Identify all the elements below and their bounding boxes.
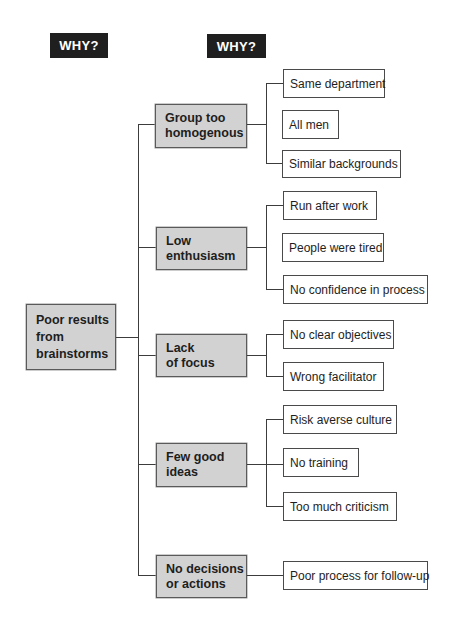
cause-connector [138,464,156,465]
leaf-connector [266,83,283,84]
leaf-connector [266,419,283,420]
branch-line [266,419,267,507]
subcause-too-much-criticism: Too much criticism [283,492,397,521]
leaf-connector [266,205,283,206]
cause-label-line: enthusiasm [166,249,235,264]
cause-label-line: homogenous [165,126,243,141]
cause-label-line: No decisions [166,562,244,577]
leaf-connector [266,376,283,377]
subcause-no-confidence-in-process: No confidence in process [283,275,428,304]
root-label-line: from [36,329,109,346]
cause-connector [138,575,156,576]
subcause-same-department: Same department [283,69,385,98]
leaf-connector [266,334,283,335]
subcause-people-were-tired: People were tired [282,233,384,262]
subcause-poor-process-for-follow-up: Poor process for follow-up [283,561,428,590]
subcause-no-training: No training [283,448,359,477]
leaf-connector [266,163,283,164]
cause-label-line: ideas [166,465,224,480]
branch-line [266,334,267,377]
subcause-run-after-work: Run after work [283,191,377,220]
cause-out-connector [247,575,283,576]
cause-label-line: or actions [166,577,244,592]
root-problem-box: Poor results from brainstorms [26,304,116,370]
root-connector [116,337,138,338]
cause-box-no-decisions-or-actions: No decisions or actions [156,555,247,598]
cause-connector [138,355,156,356]
root-problem-label: Poor results from brainstorms [36,312,109,363]
branch-line [266,83,267,164]
root-label-line: Poor results [36,312,109,329]
cause-out-connector [247,247,266,248]
cause-box-group-too-homogenous: Group too homogenous [155,104,247,148]
cause-label-line: Group too [165,111,243,126]
cause-label-line: Low [166,234,235,249]
cause-label-line: Lack [166,341,215,356]
cause-box-few-good-ideas: Few good ideas [156,443,247,487]
cause-connector [138,124,156,125]
subcause-similar-backgrounds: Similar backgrounds [282,150,401,178]
root-label-line: brainstorms [36,346,109,363]
cause-out-connector [247,124,266,125]
cause-box-lack-of-focus: Lack of focus [156,334,247,377]
cause-connector [138,247,156,248]
subcause-all-men: All men [282,110,339,139]
cause-out-connector [247,355,266,356]
leaf-connector [266,506,283,507]
cause-label-line: of focus [166,356,215,371]
cause-box-low-enthusiasm: Low enthusiasm [156,227,247,270]
branch-line [266,205,267,289]
leaf-connector [266,289,283,290]
cause-label-line: Few good [166,450,224,465]
subcause-risk-averse-culture: Risk averse culture [283,405,397,434]
why-header-level-1: WHY? [50,33,108,58]
why-header-level-2: WHY? [207,34,266,58]
main-trunk-line [138,124,139,576]
subcause-wrong-facilitator: Wrong facilitator [283,362,384,391]
cause-out-connector [247,464,283,465]
subcause-no-clear-objectives: No clear objectives [283,320,394,349]
